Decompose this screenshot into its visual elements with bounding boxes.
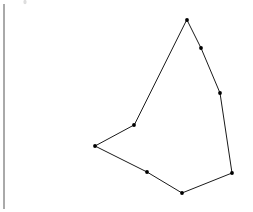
vertex-marker-right-upper <box>199 46 203 50</box>
vertex-marker-left-corner <box>93 144 97 148</box>
scan-speck-icon <box>23 0 26 4</box>
vertex-marker-bottom-right <box>230 171 234 175</box>
vertex-marker-upper-left-notch <box>132 123 136 127</box>
vertex-marker-apex-top <box>185 18 189 22</box>
polygon-outline <box>95 20 232 193</box>
vertex-marker-bottom-center <box>180 191 184 195</box>
polygon-drawing <box>0 0 253 212</box>
vertex-marker-bottom-left-mid <box>145 170 149 174</box>
figure-canvas <box>0 0 253 212</box>
vertex-marker-group <box>93 18 234 195</box>
vertex-marker-right-middle <box>218 91 222 95</box>
